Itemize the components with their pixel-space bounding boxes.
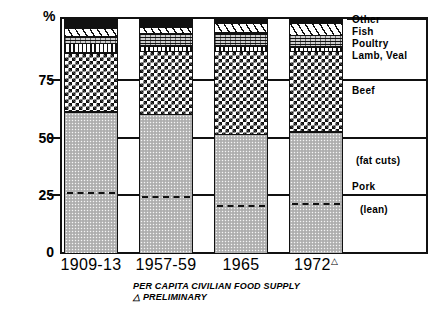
x-axis-label-1972: 1972△ [266, 256, 366, 274]
chart-caption: PER CAPITA CIVILIAN FOOD SUPPLY △ PRELIM… [133, 281, 300, 303]
segment-other-1972 [290, 17, 342, 24]
legend-label-lean: (lean) [360, 204, 388, 215]
bar-1972[interactable] [289, 17, 343, 253]
segment-other-1909-13 [65, 17, 117, 29]
segment-beef-1909-13 [65, 54, 117, 113]
segment-pork-1957-59 [140, 115, 192, 253]
preliminary-marker-icon: △ [331, 256, 338, 266]
x-label-text-1: 1909-13 [61, 256, 122, 273]
divider-beef-pork-1957-59 [140, 114, 192, 115]
divider-lamb-beef-1909-13 [65, 52, 117, 53]
divider-poultry-lamb-1957-59 [140, 45, 192, 46]
divider-lamb-beef-1957-59 [140, 51, 192, 52]
divider-poultry-lamb-1909-13 [65, 43, 117, 44]
x-label-text-4: 1972 [294, 256, 331, 273]
divider-beef-pork-1972 [290, 131, 342, 132]
divider-beef-pork-1909-13 [65, 111, 117, 112]
legend-label-fat-cuts: (fat cuts) [356, 155, 400, 166]
segment-pork-1909-13 [65, 113, 117, 253]
bar-1965[interactable] [214, 17, 268, 253]
bar-1957-59[interactable] [139, 17, 193, 253]
divider-poultry-lamb-1972 [290, 46, 342, 47]
x-label-text-2: 1957-59 [136, 256, 197, 273]
divider-fish-poultry-1972 [290, 35, 342, 36]
segment-other-1965 [215, 17, 267, 24]
lean-divider-1965 [217, 205, 265, 207]
divider-fish-poultry-1965 [215, 32, 267, 33]
divider-lamb-beef-1972 [290, 51, 342, 52]
legend-label-pork: Pork [352, 181, 375, 192]
segment-pork-1972 [290, 133, 342, 253]
segment-beef-1965 [215, 52, 267, 135]
segment-beef-1972 [290, 52, 342, 132]
bar-1909-13[interactable] [64, 17, 118, 253]
segment-other-1957-59 [140, 17, 192, 28]
divider-poultry-lamb-1965 [215, 45, 267, 46]
caption-line-2: △ PRELIMINARY [133, 292, 300, 303]
legend-label-lamb-veal: Lamb, Veal [352, 50, 407, 61]
x-label-text-3: 1965 [223, 256, 260, 273]
divider-fish-poultry-1957-59 [140, 33, 192, 34]
divider-lamb-beef-1965 [215, 51, 267, 52]
lean-divider-1957-59 [142, 196, 190, 198]
stacked-bar-chart: % 75 50 25 0 [0, 0, 440, 309]
divider-fish-poultry-1909-13 [65, 36, 117, 37]
y-axis-unit-label: % [43, 8, 56, 24]
legend-label-poultry: Poultry [352, 38, 389, 49]
lean-divider-1972 [292, 203, 340, 205]
caption-line-1: PER CAPITA CIVILIAN FOOD SUPPLY [133, 281, 300, 292]
segment-beef-1957-59 [140, 52, 192, 115]
legend-label-beef: Beef [352, 85, 375, 96]
legend-label-other: Other [352, 14, 380, 25]
legend-label-fish: Fish [352, 26, 374, 37]
segment-pork-1965 [215, 135, 267, 253]
divider-beef-pork-1965 [215, 134, 267, 135]
lean-divider-1909-13 [67, 192, 115, 194]
